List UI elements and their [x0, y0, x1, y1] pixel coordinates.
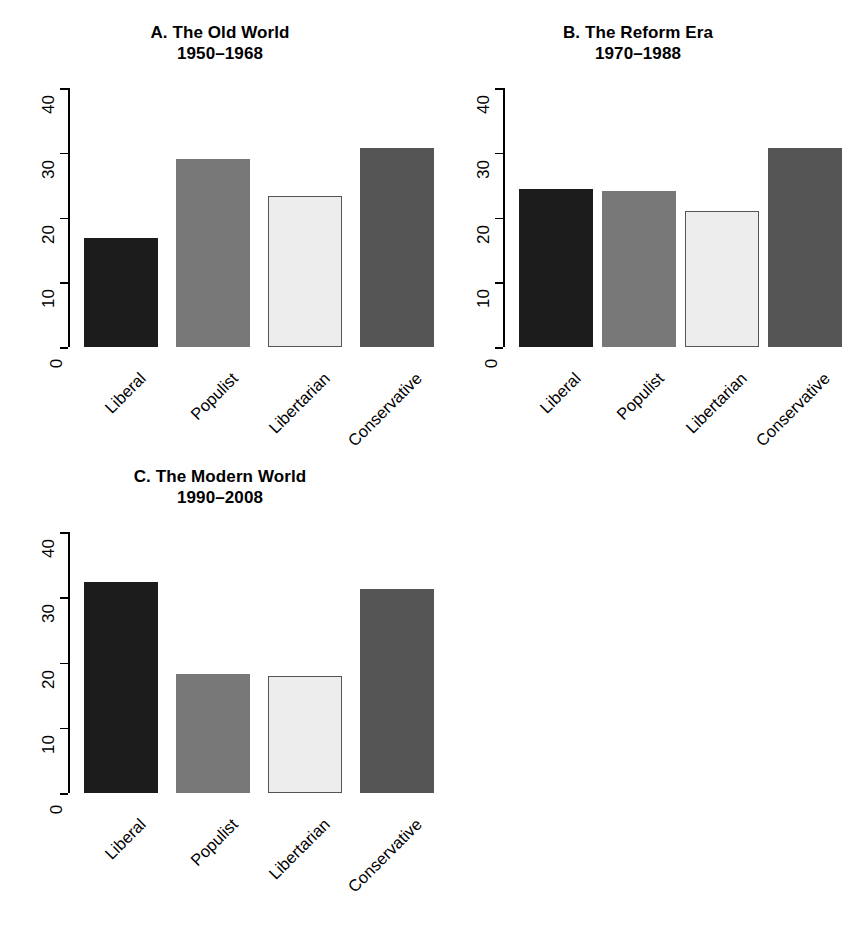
panel-c-bar-liberal	[84, 582, 158, 793]
panel-b-bar-libertarian	[685, 211, 759, 347]
panel-a-bar-libertarian	[268, 196, 342, 348]
panel-c-cat-label-conservative: Conservative	[321, 815, 425, 919]
panel-c: C. The Modern World 1990–2008 40 30 20 1…	[0, 466, 440, 906]
panel-b-cat-label-libertarian: Libertarian	[653, 369, 750, 466]
panel-c-tick-40	[60, 532, 68, 534]
panel-a-bar-populist	[176, 159, 250, 347]
panel-c-tick-label-30: 30	[40, 599, 57, 629]
panel-b-bar-populist	[602, 191, 676, 347]
panel-c-cat-label-liberal: Liberal	[66, 815, 149, 898]
panel-a-plot: 40 30 20 10 0 Liberal Populist Libertari…	[0, 22, 440, 452]
panel-b-y-axis	[503, 88, 505, 347]
panel-a-tick-10	[60, 282, 68, 284]
panel-b-tick-label-0: 0	[483, 349, 500, 379]
panel-a-tick-label-40: 40	[40, 90, 57, 120]
panel-c-bar-libertarian	[268, 676, 342, 794]
panel-a-cat-label-conservative: Conservative	[321, 369, 425, 473]
panel-b-bar-conservative	[768, 148, 842, 347]
panel-b-tick-10	[495, 282, 503, 284]
panel-c-cat-label-populist: Populist	[158, 815, 241, 898]
panel-a: A. The Old World 1950–1968 40 30 20 10 0	[0, 22, 440, 452]
panel-a-tick-label-10: 10	[40, 284, 57, 314]
panel-c-tick-label-10: 10	[40, 729, 57, 759]
panel-a-tick-30	[60, 153, 68, 155]
panel-c-tick-label-20: 20	[40, 664, 57, 694]
panel-c-tick-30	[60, 597, 68, 599]
panel-b-tick-20	[495, 218, 503, 220]
panel-b-tick-label-30: 30	[475, 154, 492, 184]
panel-a-bar-liberal	[84, 238, 158, 347]
panel-a-tick-40	[60, 88, 68, 90]
panel-b-cat-label-liberal: Liberal	[501, 369, 584, 452]
panel-a-cat-label-populist: Populist	[158, 369, 241, 452]
panel-a-tick-label-0: 0	[48, 349, 65, 379]
panel-a-tick-20	[60, 218, 68, 220]
panel-b-tick-label-40: 40	[475, 90, 492, 120]
panel-c-y-axis	[68, 532, 70, 793]
figure-canvas: A. The Old World 1950–1968 40 30 20 10 0	[0, 0, 858, 929]
panel-b-tick-30	[495, 153, 503, 155]
panel-c-cat-label-libertarian: Libertarian	[236, 815, 333, 912]
panel-b-plot: 40 30 20 10 0 Liberal Populist Libertari…	[418, 22, 858, 452]
panel-c-tick-20	[60, 663, 68, 665]
panel-c-bar-populist	[176, 674, 250, 794]
panel-c-plot: 40 30 20 10 0 Liberal Populist Libertari…	[0, 466, 440, 906]
panel-b-cat-label-populist: Populist	[584, 369, 667, 452]
panel-b-tick-40	[495, 88, 503, 90]
panel-c-tick-label-0: 0	[48, 795, 65, 825]
panel-b: B. The Reform Era 1970–1988 40 30 20 10 …	[418, 22, 858, 452]
panel-a-cat-label-libertarian: Libertarian	[236, 369, 333, 466]
panel-a-cat-label-liberal: Liberal	[66, 369, 149, 452]
panel-a-tick-label-20: 20	[40, 219, 57, 249]
panel-b-bar-liberal	[519, 189, 593, 347]
panel-b-tick-label-20: 20	[475, 219, 492, 249]
panel-c-tick-label-40: 40	[40, 534, 57, 564]
panel-c-bar-conservative	[360, 589, 434, 793]
panel-a-tick-label-30: 30	[40, 154, 57, 184]
panel-b-tick-label-10: 10	[475, 284, 492, 314]
panel-a-y-axis	[68, 88, 70, 347]
panel-c-tick-10	[60, 728, 68, 730]
